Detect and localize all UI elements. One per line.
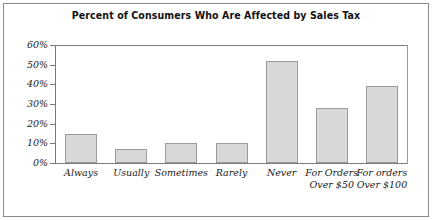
y-axis-tick — [50, 65, 55, 66]
bar — [165, 143, 197, 163]
bar — [65, 134, 97, 164]
x-axis-tick-label: For ordersOver $100 — [353, 167, 411, 190]
x-axis-tick-label-line: For orders — [353, 167, 411, 179]
y-axis-tick-label: 10% — [4, 137, 48, 148]
bar — [216, 143, 248, 163]
bar — [316, 108, 348, 163]
y-axis-tick-label: 60% — [4, 39, 48, 50]
bar — [366, 86, 398, 163]
axis-spine-right — [407, 45, 408, 164]
axis-spine-left — [55, 45, 56, 164]
bar — [115, 149, 147, 163]
y-axis-tick — [50, 143, 55, 144]
chart-figure: Percent of Consumers Who Are Affected by… — [0, 0, 432, 220]
axis-spine-bottom — [55, 163, 408, 164]
x-axis-tick-label-line: Over $100 — [353, 179, 411, 191]
y-axis-tick — [50, 104, 55, 105]
bar — [266, 61, 298, 163]
y-axis-tick — [50, 45, 55, 46]
y-axis-tick-label: 30% — [4, 98, 48, 109]
y-axis-tick — [50, 163, 55, 164]
chart-title: Percent of Consumers Who Are Affected by… — [0, 9, 432, 21]
y-axis-tick-label: 50% — [4, 59, 48, 70]
y-axis-tick — [50, 124, 55, 125]
y-axis-tick-label: 20% — [4, 118, 48, 129]
axis-spine-top — [55, 45, 408, 46]
y-axis-tick-label: 40% — [4, 78, 48, 89]
y-axis-tick-label: 0% — [4, 157, 48, 168]
y-axis-tick — [50, 84, 55, 85]
